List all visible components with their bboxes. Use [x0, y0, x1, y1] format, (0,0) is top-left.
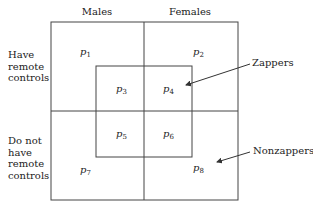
- cell-p8: p8: [193, 162, 204, 175]
- cell-p6: p6: [163, 128, 174, 141]
- cell-p5: p5: [116, 128, 127, 141]
- cell-p7: p7: [80, 164, 91, 177]
- nonzappers-arrow: [217, 152, 250, 162]
- cell-p3: p3: [116, 83, 127, 96]
- row-header-line: remote: [8, 61, 49, 73]
- row-header-no-remote: Do not have remote controls: [8, 135, 49, 181]
- callout-nonzappers: Nonzappers: [253, 145, 313, 156]
- cell-p1: p1: [80, 46, 91, 59]
- row-header-line: remote: [8, 158, 49, 170]
- row-header-have-remote: Have remote controls: [8, 49, 49, 84]
- zappers-arrow: [186, 64, 250, 85]
- cell-p4: p4: [163, 83, 174, 96]
- row-header-line: have: [8, 147, 49, 159]
- row-header-line: controls: [8, 170, 49, 182]
- row-header-line: controls: [8, 72, 49, 84]
- column-header-females: Females: [150, 6, 230, 17]
- cell-p2: p2: [193, 46, 204, 59]
- column-header-males: Males: [57, 6, 137, 17]
- row-header-line: Have: [8, 49, 49, 61]
- row-header-line: Do not: [8, 135, 49, 147]
- callout-zappers: Zappers: [252, 57, 294, 68]
